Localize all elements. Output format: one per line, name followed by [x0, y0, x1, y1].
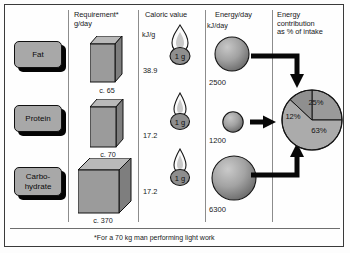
flame-icon-protein: 1 g	[166, 92, 194, 132]
flame-icon-carbohydrate: 1 g	[166, 148, 194, 188]
column-divider-2	[138, 10, 139, 222]
nutrient-plaque-carbohydrate: Carbo- hydrate	[14, 167, 62, 196]
flame-icon-fat: 1 g	[166, 24, 194, 66]
caloric-value-carbohydrate: 17.2	[143, 187, 157, 196]
column-header-energy-per-day: Energy/day	[215, 11, 252, 20]
plaque-label-protein: Protein	[14, 105, 62, 132]
flame-label-carbohydrate: 1 g	[175, 174, 185, 183]
column-divider-3	[205, 10, 206, 222]
energy-sphere-fat	[214, 36, 250, 72]
pie-label-carbohydrate: 63%	[311, 126, 327, 135]
footnote-rule	[10, 228, 340, 229]
column-header-caloric-value: Caloric value	[145, 11, 187, 20]
pie-label-fat: 25%	[308, 98, 323, 107]
nutrient-plaque-protein: Protein	[14, 105, 62, 132]
caloric-value-fat: 38.9	[143, 66, 157, 75]
plaque-label-carbohydrate: Carbo- hydrate	[14, 167, 62, 196]
requirement-value-carbohydrate: c. 370	[77, 216, 129, 225]
requirement-cube-fat	[90, 36, 123, 84]
flame-label-protein: 1 g	[175, 118, 185, 127]
nutrition-energy-figure: Requirement* g/day Caloric value kJ/g En…	[0, 0, 350, 253]
column-header-energy-contribution: Energy contribution as % of intake	[277, 11, 323, 37]
energy-contribution-pie-chart: 25% 12% 63%	[280, 88, 344, 152]
nutrient-plaque-fat: Fat	[14, 41, 62, 68]
pie-label-protein: 12%	[285, 112, 300, 121]
energy-sphere-protein	[222, 111, 244, 133]
column-divider-1	[68, 10, 69, 222]
energy-value-protein: 1200	[209, 136, 226, 145]
energy-value-fat: 2500	[209, 78, 226, 87]
energy-value-carbohydrate: 6300	[209, 205, 226, 214]
plaque-label-fat: Fat	[14, 41, 62, 68]
arrow-protein-to-pie	[249, 114, 279, 130]
unit-label-kj-per-g: kJ/g	[142, 31, 155, 39]
column-header-requirement: Requirement* g/day	[74, 11, 119, 28]
arrow-fat-to-pie	[249, 50, 311, 92]
requirement-value-fat: c. 65	[85, 86, 129, 95]
unit-label-kj-per-day: kJ/day	[207, 22, 228, 30]
requirement-cube-carbohydrate	[78, 158, 132, 215]
flame-label-fat: 1 g	[175, 52, 185, 61]
caloric-value-protein: 17.2	[143, 131, 157, 140]
figure-footnote: *For a 70 kg man performing light work	[94, 234, 215, 241]
requirement-cube-protein	[90, 99, 124, 149]
